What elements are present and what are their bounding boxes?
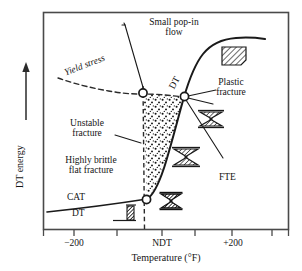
plastic-shear-specimen bbox=[222, 47, 246, 65]
figure-canvas: Small pop-in flow Yield stress DT Plasti… bbox=[0, 0, 302, 271]
fracture-analysis-diagram bbox=[0, 0, 302, 271]
fte-label: FTE bbox=[219, 172, 249, 182]
cat-label: CAT bbox=[67, 192, 99, 202]
x-axis-ticks bbox=[44, 230, 289, 237]
y-axis-arrow bbox=[22, 62, 29, 120]
fte-transition-marker bbox=[180, 92, 188, 100]
x-axis-label: Temperature (°F) bbox=[96, 253, 236, 264]
y-axis-label: DT energy bbox=[15, 145, 26, 188]
plastic-fracture-label: Plastic fracture bbox=[198, 77, 264, 98]
x-tick-label-plus200: +200 bbox=[213, 238, 253, 248]
small-popin-flow-label: Small pop-in flow bbox=[131, 17, 217, 38]
highly-brittle-flat-fracture-label: Highly brittle flat fracture bbox=[49, 155, 133, 176]
x-tick-label-minus200: −200 bbox=[54, 238, 94, 248]
dt-bottom-label: DT bbox=[72, 208, 96, 218]
unstable-fracture-label: Unstable fracture bbox=[56, 118, 118, 139]
upper-nil-ductility-marker bbox=[139, 89, 147, 97]
ndt-marker bbox=[142, 195, 150, 203]
x-tick-label-ndt: NDT bbox=[143, 238, 181, 248]
